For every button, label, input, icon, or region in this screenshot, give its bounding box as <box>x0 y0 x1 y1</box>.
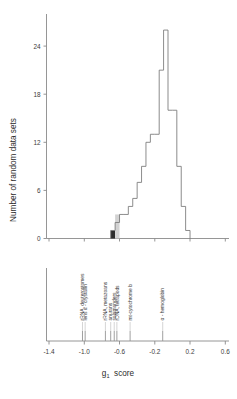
x-tick-label--1.0: -1.0 <box>79 348 90 355</box>
x-tick-label-0.6: 0.6 <box>221 348 230 355</box>
y-tick-label-6: 6 <box>37 187 41 194</box>
x-axis-title: g1 score <box>102 369 135 379</box>
grey-shaded-bin <box>115 214 119 238</box>
x-tick-label-0.2: 0.2 <box>186 348 195 355</box>
y-tick-group: 0 6 12 18 24 <box>33 43 46 242</box>
rug-label-6: mt-cytochrome b <box>128 284 133 321</box>
y-axis-label: Number of random data sets <box>9 118 18 222</box>
x-tick-group-lower: -1.4 -1.0 -0.6 -0.2 0.2 0.6 <box>43 341 230 355</box>
rug-label-1: lens α - crystallin <box>83 284 88 321</box>
y-tick-label-0: 0 <box>37 235 41 242</box>
histogram-outline <box>111 30 190 238</box>
dark-shaded-bin <box>111 230 115 238</box>
x-tick-label--0.6: -0.6 <box>114 348 125 355</box>
rug-tick-group <box>82 322 162 341</box>
rug-label-2: rRNA, metazoans <box>103 281 108 320</box>
y-tick-label-12: 12 <box>33 139 41 146</box>
x-tick-label--1.4: -1.4 <box>43 348 54 355</box>
rug-label-group: rRNA, deuterostomeslens α - crystallinrR… <box>80 273 165 321</box>
y-tick-label-24: 24 <box>33 43 41 50</box>
rug-label-5: rDNA, tetrapods <box>115 285 120 321</box>
rug-label-7: α - hemoglobin <box>160 288 165 321</box>
figure-root: Number of random data sets 0 6 12 18 24 <box>0 0 237 399</box>
x-tick-label--0.2: -0.2 <box>149 348 160 355</box>
x-axis-title-text: g1 score <box>102 369 135 379</box>
histogram-figure: Number of random data sets 0 6 12 18 24 <box>0 0 237 399</box>
y-tick-label-18: 18 <box>33 91 41 98</box>
x-title-score: score <box>114 369 134 378</box>
figure-svg: Number of random data sets 0 6 12 18 24 <box>0 0 237 399</box>
